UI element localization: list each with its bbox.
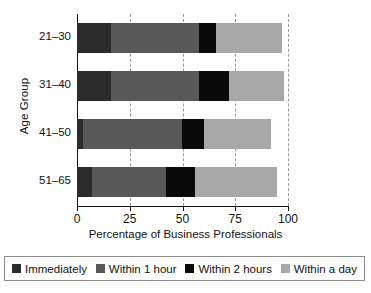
y-tick-label-1: 21–30	[18, 30, 71, 42]
x-tick-label-75: 75	[215, 212, 255, 226]
x-tick-label-100: 100	[268, 212, 308, 226]
bar-group-4	[77, 167, 288, 197]
tickmark-0	[77, 206, 78, 211]
bars-container	[77, 14, 288, 206]
bar-segment	[199, 71, 229, 101]
bar-segment	[111, 23, 200, 53]
x-axis-title: Percentage of Business Professionals	[0, 228, 371, 240]
bar-group-2	[77, 71, 288, 101]
bar-group-1	[77, 23, 288, 53]
bar-segment	[199, 23, 216, 53]
x-tick-label-50: 50	[163, 212, 203, 226]
y-tick-label-3: 41–50	[18, 126, 71, 138]
tickmark-50	[183, 206, 184, 211]
legend-swatch-icon	[12, 264, 21, 273]
y-tick-label-4: 51–65	[18, 174, 71, 186]
bar-segment	[166, 167, 196, 197]
plot-area: Age Group 21–3031–4041–5051–65 025507510…	[0, 0, 371, 248]
legend-label: Within 2 hours	[198, 263, 272, 275]
tickmark-25	[130, 206, 131, 211]
legend-swatch-icon	[96, 264, 105, 273]
tickmark-75	[235, 206, 236, 211]
bar-segment	[77, 167, 92, 197]
legend-swatch-icon	[281, 264, 290, 273]
legend-item-1[interactable]: Immediately	[12, 263, 87, 275]
legend-swatch-icon	[185, 264, 194, 273]
bar-segment	[83, 119, 182, 149]
tickmark-100	[288, 206, 289, 211]
chart-legend: ImmediatelyWithin 1 hourWithin 2 hoursWi…	[4, 256, 365, 281]
chart-root: Age Group 21–3031–4041–5051–65 025507510…	[0, 0, 371, 293]
bar-segment	[111, 71, 200, 101]
x-tick-label-0: 0	[57, 212, 97, 226]
legend-label: Within 1 hour	[109, 263, 177, 275]
legend-label: Within a day	[294, 263, 357, 275]
legend-item-3[interactable]: Within 2 hours	[185, 263, 272, 275]
bar-group-3	[77, 119, 288, 149]
bar-segment	[77, 71, 111, 101]
bar-segment	[229, 71, 284, 101]
bar-segment	[204, 119, 272, 149]
bar-segment	[92, 167, 166, 197]
y-tick-label-2: 31–40	[18, 78, 71, 90]
legend-label: Immediately	[25, 263, 87, 275]
x-tick-label-25: 25	[110, 212, 150, 226]
legend-item-2[interactable]: Within 1 hour	[96, 263, 177, 275]
legend-item-4[interactable]: Within a day	[281, 263, 357, 275]
bar-segment	[195, 167, 277, 197]
gridline-100	[288, 14, 289, 206]
bar-segment	[182, 119, 203, 149]
bar-segment	[77, 23, 111, 53]
bar-segment	[216, 23, 281, 53]
